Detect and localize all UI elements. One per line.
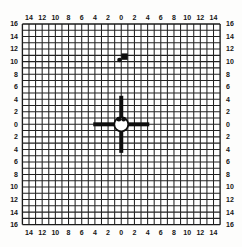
axis-tick-label: 10 <box>183 14 191 21</box>
axis-tick-label: 6 <box>14 158 18 165</box>
axis-tick-label: 4 <box>93 229 97 236</box>
axis-tick-label: 10 <box>183 229 191 236</box>
axis-tick-label: 6 <box>80 14 84 21</box>
axis-tick-label: 14 <box>226 33 234 40</box>
target-grid-chart: 1412108642024681012141412108642024681012… <box>0 0 242 247</box>
axis-tick-label: 10 <box>51 229 59 236</box>
axis-tick-label: 4 <box>146 14 150 21</box>
axis-tick-label: 14 <box>210 14 218 21</box>
axis-tick-label: 2 <box>14 108 18 115</box>
axis-tick-label: 2 <box>226 133 230 140</box>
axis-tick-label: 16 <box>226 221 234 228</box>
axis-tick-label: 10 <box>226 183 234 190</box>
axis-tick-label: 14 <box>25 229 33 236</box>
axis-tick-label: 16 <box>10 20 18 27</box>
axis-tick-label: 2 <box>14 133 18 140</box>
impact-square <box>121 53 127 59</box>
axis-tick-label: 8 <box>67 229 71 236</box>
axis-tick-label: 6 <box>226 83 230 90</box>
axis-tick-label: 4 <box>14 146 18 153</box>
axis-tick-label: 12 <box>38 14 46 21</box>
axis-tick-label: 2 <box>226 108 230 115</box>
axis-tick-label: 4 <box>14 96 18 103</box>
circle-inner-dot <box>116 117 121 122</box>
x-axis-labels-bottom: 141210864202468101214 <box>25 229 217 236</box>
axis-tick-label: 6 <box>80 229 84 236</box>
axis-tick-label: 10 <box>51 14 59 21</box>
axis-tick-label: 8 <box>172 229 176 236</box>
axis-tick-label: 8 <box>172 14 176 21</box>
axis-tick-label: 14 <box>10 209 18 216</box>
axis-tick-label: 4 <box>146 229 150 236</box>
axis-tick-label: 2 <box>106 229 110 236</box>
axis-tick-label: 0 <box>119 14 123 21</box>
axis-tick-label: 4 <box>93 14 97 21</box>
axis-tick-label: 14 <box>210 229 218 236</box>
axis-tick-label: 12 <box>196 14 204 21</box>
axis-tick-label: 2 <box>132 14 136 21</box>
axis-tick-label: 12 <box>10 196 18 203</box>
axis-tick-label: 6 <box>159 14 163 21</box>
axis-tick-label: 12 <box>10 45 18 52</box>
axis-tick-label: 14 <box>25 14 33 21</box>
y-axis-labels-left: 1614121086420246810121416 <box>10 20 18 228</box>
axis-tick-label: 6 <box>14 83 18 90</box>
axis-tick-label: 12 <box>226 45 234 52</box>
circle-inner-dot <box>121 117 126 122</box>
axis-tick-label: 14 <box>226 209 234 216</box>
impact-dot <box>117 58 122 63</box>
axis-tick-label: 8 <box>226 71 230 78</box>
axis-tick-label: 0 <box>14 121 18 128</box>
axis-tick-label: 8 <box>67 14 71 21</box>
axis-tick-label: 0 <box>119 229 123 236</box>
axis-tick-label: 6 <box>226 158 230 165</box>
axis-tick-label: 14 <box>10 33 18 40</box>
axis-tick-label: 16 <box>10 221 18 228</box>
axis-tick-label: 16 <box>226 20 234 27</box>
axis-tick-label: 10 <box>10 183 18 190</box>
axis-tick-label: 8 <box>14 171 18 178</box>
axis-tick-label: 0 <box>226 121 230 128</box>
axis-tick-label: 8 <box>226 171 230 178</box>
axis-tick-label: 2 <box>132 229 136 236</box>
axis-tick-label: 6 <box>159 229 163 236</box>
x-axis-labels-top: 141210864202468101214 <box>25 14 217 21</box>
axis-tick-label: 12 <box>38 229 46 236</box>
axis-tick-label: 4 <box>226 146 230 153</box>
axis-tick-label: 10 <box>10 58 18 65</box>
sight-in-target: 1412108642024681012141412108642024681012… <box>0 0 242 247</box>
axis-tick-label: 4 <box>226 96 230 103</box>
axis-tick-label: 10 <box>226 58 234 65</box>
axis-tick-label: 2 <box>106 14 110 21</box>
y-axis-labels-right: 1614121086420246810121416 <box>226 20 234 228</box>
axis-tick-label: 12 <box>196 229 204 236</box>
axis-tick-label: 12 <box>226 196 234 203</box>
axis-tick-label: 8 <box>14 71 18 78</box>
